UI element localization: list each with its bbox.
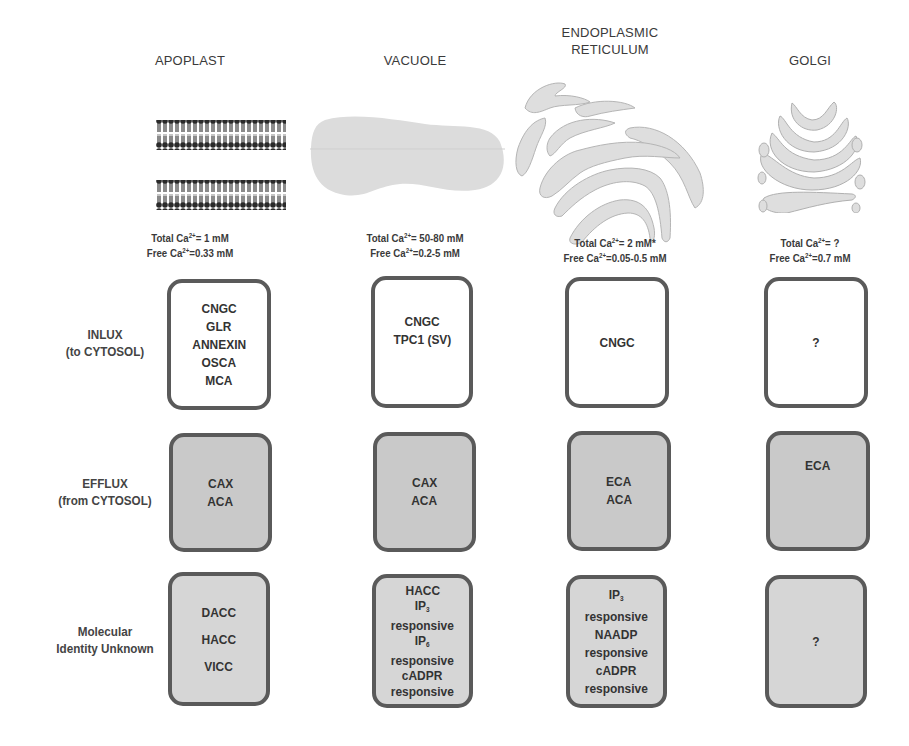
column-title-er-line1: ENDOPLASMIC <box>555 24 665 41</box>
channel-label: DACC <box>202 599 237 626</box>
channel-label: IP6 <box>415 633 430 653</box>
calcium-info-golgi: Total Ca2+= ? Free Ca2+=0.7 mM <box>757 236 863 266</box>
column-title-endoplasmic-reticulum: ENDOPLASMIC RETICULUM <box>555 24 665 58</box>
efflux-er-box: ECA ACA <box>567 431 671 551</box>
golgi-shape-icon <box>752 98 872 213</box>
column-title-er-line2: RETICULUM <box>555 41 665 58</box>
channel-label: cADPR <box>596 662 637 680</box>
column-title-golgi: GOLGI <box>770 52 850 69</box>
transporter-label: ACA <box>412 492 438 510</box>
channel-label: GLR <box>206 318 231 336</box>
unknown-er-box: IP3 responsive NAADP responsive cADPR re… <box>566 575 667 708</box>
unknown-label: ? <box>812 633 819 651</box>
influx-golgi-box: ? <box>764 277 868 408</box>
channel-label: VICC <box>205 653 234 680</box>
unknown-label: ? <box>812 334 819 352</box>
channel-label: OSCA <box>202 354 237 372</box>
calcium-info-vacuole: Total Ca2+= 50-80 mM Free Ca2+=0.2-5 mM <box>353 231 476 261</box>
channel-label: IP3 <box>415 598 430 618</box>
channel-label: responsive <box>585 644 648 662</box>
channel-label: HACC <box>202 626 237 653</box>
channel-label: responsive <box>391 653 454 669</box>
channel-label: responsive <box>391 618 454 634</box>
channel-label: responsive <box>585 608 648 626</box>
transporter-label: ACA <box>606 491 632 509</box>
channel-label: IP3 <box>609 586 624 608</box>
transporter-label: ECA <box>805 457 830 475</box>
channel-label: MCA <box>205 372 232 390</box>
influx-apoplast-box: CNGC GLR ANNEXIN OSCA MCA <box>167 279 271 410</box>
lipid-bilayer-membrane-icon <box>150 118 290 214</box>
transporter-label: ACA <box>208 493 234 511</box>
column-title-apoplast: APOPLAST <box>140 52 240 69</box>
influx-vacuole-box: CNGC TPC1 (SV) <box>371 276 473 408</box>
vacuole-shape-icon <box>305 112 510 202</box>
channel-label: cADPR <box>402 668 443 684</box>
unknown-golgi-box: ? <box>765 575 867 708</box>
channel-label: NAADP <box>595 626 638 644</box>
influx-er-box: CNGC <box>565 277 669 408</box>
efflux-vacuole-box: CAX ACA <box>373 432 476 552</box>
channel-label: responsive <box>391 684 454 700</box>
channel-label: CNGC <box>404 313 439 331</box>
channel-label: ANNEXIN <box>192 336 246 354</box>
channel-label: responsive <box>585 680 648 698</box>
efflux-golgi-box: ECA <box>766 431 870 551</box>
calcium-info-apoplast: Total Ca2+= 1 mM Free Ca2+=0.33 mM <box>137 231 243 261</box>
channel-label: CNGC <box>201 300 236 318</box>
channel-label: TPC1 (SV) <box>393 331 451 349</box>
unknown-apoplast-box: DACC HACC VICC <box>168 572 270 706</box>
calcium-info-endoplasmic-reticulum: Total Ca2+= 2 mM* Free Ca2+=0.05-0.5 mM <box>549 236 681 266</box>
unknown-vacuole-box: HACC IP3 responsive IP6 responsive cADPR… <box>372 574 473 708</box>
channel-label: HACC <box>405 583 440 599</box>
transporter-label: CAX <box>412 474 437 492</box>
row-label-influx: INLUX (to CYTOSOL) <box>47 326 164 360</box>
channel-label: CNGC <box>599 334 634 352</box>
column-title-vacuole: VACUOLE <box>365 52 465 69</box>
transporter-label: CAX <box>208 475 233 493</box>
transporter-label: ECA <box>606 473 631 491</box>
endoplasmic-reticulum-shape-icon <box>510 78 715 246</box>
row-label-efflux: EFFLUX (from CYTOSOL) <box>47 475 164 509</box>
row-label-molecular-identity-unknown: Molecular Identity Unknown <box>38 623 173 657</box>
efflux-apoplast-box: CAX ACA <box>169 433 272 552</box>
